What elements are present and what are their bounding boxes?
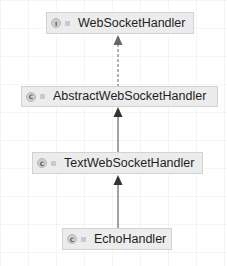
- node-abstractwebsockethandler[interactable]: C AbstractWebSocketHandler: [21, 86, 218, 107]
- edge-implements: [114, 35, 123, 87]
- node-websockethandler[interactable]: I WebSocketHandler: [46, 12, 194, 34]
- diagram-canvas: I WebSocketHandler C AbstractWebSocketHa…: [0, 0, 227, 266]
- visibility-icon: [40, 94, 45, 99]
- class-icon: C: [37, 158, 47, 168]
- node-label: EchoHandler: [94, 233, 166, 246]
- node-label: TextWebSocketHandler: [64, 157, 194, 170]
- class-icon: C: [67, 234, 77, 244]
- node-echohandler[interactable]: C EchoHandler: [62, 228, 172, 250]
- edge-extends-1: [114, 107, 123, 152]
- arrowhead-icon: [114, 35, 123, 45]
- visibility-icon: [65, 21, 70, 26]
- edges-layer: [0, 0, 227, 266]
- arrowhead-icon: [114, 175, 123, 185]
- visibility-icon: [81, 237, 86, 242]
- node-label: AbstractWebSocketHandler: [53, 90, 206, 103]
- node-textwebsockethandler[interactable]: C TextWebSocketHandler: [32, 152, 203, 174]
- arrowhead-icon: [114, 107, 123, 117]
- interface-icon: I: [51, 18, 61, 28]
- class-icon: C: [26, 92, 36, 102]
- node-label: WebSocketHandler: [78, 17, 185, 30]
- visibility-icon: [51, 161, 56, 166]
- edge-extends-2: [114, 175, 123, 228]
